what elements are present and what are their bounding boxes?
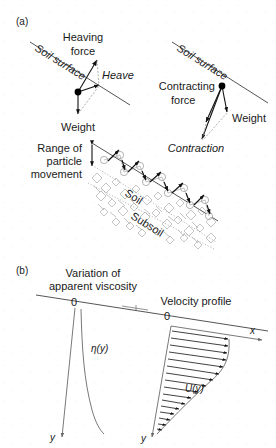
range-label-line2: particle bbox=[47, 155, 82, 167]
panel-b-label: (b) bbox=[16, 265, 28, 276]
weight-label-right: Weight bbox=[232, 112, 266, 124]
contracting-force-label-line2: force bbox=[171, 94, 195, 106]
contracting-force-label-line1: Contracting bbox=[159, 80, 215, 92]
viscosity-y-label: y bbox=[49, 432, 56, 443]
panel-a-label: (a) bbox=[16, 16, 28, 27]
velocity-curve-label: U(y) bbox=[185, 383, 204, 394]
viscosity-curve-label: η(y) bbox=[91, 343, 108, 354]
heaving-force-label-line1: Heaving bbox=[63, 31, 103, 43]
viscosity-title-line1: Variation of bbox=[66, 267, 122, 279]
figure-svg: (a) Soil surface Heaving force Heave Wei… bbox=[0, 0, 276, 448]
velocity-title: Velocity profile bbox=[161, 295, 232, 307]
velocity-x-label: x bbox=[249, 325, 256, 336]
weight-label-left: Weight bbox=[61, 121, 95, 133]
viscosity-title-line2: apparent viscosity bbox=[49, 280, 138, 292]
viscosity-origin-label: 0 bbox=[71, 296, 77, 308]
velocity-y-label: y bbox=[140, 433, 147, 444]
heaving-force-label-line2: force bbox=[71, 45, 95, 57]
heave-label: Heave bbox=[102, 69, 134, 81]
particle-dot-left bbox=[75, 89, 82, 96]
figure-container: (a) Soil surface Heaving force Heave Wei… bbox=[0, 0, 276, 448]
range-label-line3: movement bbox=[31, 168, 82, 180]
velocity-origin-label: 0 bbox=[164, 310, 170, 322]
particle-dot-right bbox=[219, 83, 226, 90]
range-label-line1: Range of bbox=[37, 142, 83, 154]
contraction-label: Contraction bbox=[168, 142, 224, 154]
